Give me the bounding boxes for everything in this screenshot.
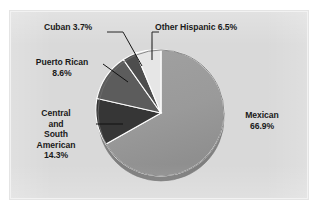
pie-label-mexican-value: 66.9% <box>229 121 295 132</box>
pie-label-puerto-rican-name: Puerto Rican <box>23 57 101 68</box>
pie-label-mexican-name: Mexican <box>229 110 295 121</box>
pie-chart-graphic <box>11 12 307 198</box>
pie-label-central-line-3: South <box>22 129 90 140</box>
pie-label-puerto-rican: Puerto Rican 8.6% <box>23 57 101 78</box>
pie-label-central-line-1: Central <box>22 108 90 119</box>
pie-label-cuban-text: Cuban 3.7% <box>44 22 92 32</box>
pie-label-central-line-4: American <box>22 140 90 151</box>
pie-label-mexican: Mexican 66.9% <box>229 110 295 131</box>
pie-label-central-south-american: Central and South American 14.3% <box>22 108 90 161</box>
pie-label-cuban: Cuban 3.7% <box>44 22 92 33</box>
pie-label-puerto-rican-value: 8.6% <box>23 68 101 79</box>
pie-label-other-hispanic: Other Hispanic 6.5% <box>155 22 237 33</box>
pie-label-central-line-2: and <box>22 119 90 130</box>
pie-label-other-hispanic-text: Other Hispanic 6.5% <box>155 22 237 32</box>
figure-root: Cuban 3.7% Other Hispanic 6.5% Puerto Ri… <box>0 0 319 212</box>
pie-chart-panel <box>11 12 307 198</box>
pie-label-central-value: 14.3% <box>22 150 90 161</box>
